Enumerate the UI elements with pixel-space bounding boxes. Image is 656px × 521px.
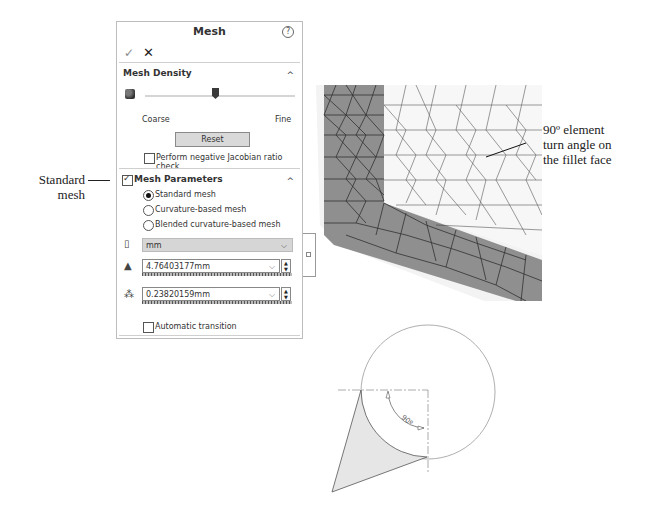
slider-thumb[interactable] (212, 88, 219, 99)
chevron-down-icon[interactable]: ⌵ (269, 288, 275, 301)
element-size-thumbwheel[interactable] (142, 273, 292, 276)
mesh-parameters-checkbox[interactable] (122, 175, 133, 186)
turn-angle-annotation: 90º element turn angle on the fillet fac… (543, 122, 612, 167)
fine-label: Fine (275, 115, 291, 124)
mesh-density-header[interactable]: Mesh Density (123, 68, 192, 78)
collapse-handle-icon (306, 252, 311, 257)
chevron-up-icon[interactable]: ^ (286, 70, 294, 80)
unit-select[interactable]: mm ⌵ (142, 238, 293, 252)
automatic-transition-label: Automatic transition (155, 322, 237, 331)
mesh-density-slider[interactable] (145, 95, 295, 97)
ok-check-icon[interactable]: ✓ (124, 46, 134, 60)
tolerance-icon: ⁂ (124, 289, 134, 300)
chevron-up-icon[interactable]: ^ (286, 176, 294, 186)
standard-mesh-label: Standard mesh (155, 190, 216, 199)
chevron-down-icon: ⌵ (281, 239, 287, 253)
annotation-text: 90º element (543, 122, 612, 137)
fillet-angle-diagram: 90º (320, 320, 500, 520)
element-size-input[interactable]: 4.76403177mm ⌵ (142, 259, 280, 273)
annotation-text: turn angle on (543, 137, 612, 152)
annotation-text: the fillet face (543, 152, 612, 167)
unit-value: mm (146, 241, 162, 250)
annotation-text: mesh (33, 187, 85, 202)
tolerance-input[interactable]: 0.23820159mm ⌵ (142, 287, 280, 301)
tolerance-spinner[interactable]: ▲▼ (281, 287, 291, 301)
element-size-value: 4.76403177mm (146, 262, 210, 271)
panel-collapse-tab[interactable] (303, 233, 316, 277)
radio-curvature-mesh[interactable] (143, 205, 154, 216)
chevron-down-icon[interactable]: ⌵ (269, 260, 275, 273)
panel-title: Mesh (117, 25, 302, 38)
mesh-render (316, 85, 542, 301)
close-icon[interactable]: ✕ (143, 45, 154, 60)
curvature-mesh-label: Curvature-based mesh (155, 205, 246, 214)
tolerance-thumbwheel[interactable] (142, 301, 292, 304)
element-size-spinner[interactable]: ▲▼ (281, 259, 291, 273)
element-size-icon: ▲ (124, 260, 132, 271)
mesh-property-manager: Mesh ? ✓ ✕ Mesh Density ^ Coarse Fine Re… (116, 21, 303, 339)
divider (119, 62, 300, 63)
coarse-label: Coarse (142, 115, 170, 124)
leader-line (88, 180, 110, 181)
divider (119, 168, 300, 169)
divider (119, 335, 300, 336)
mesh-parameters-header: Mesh Parameters (134, 174, 223, 184)
blended-mesh-label: Blended curvature-based mesh (155, 220, 281, 229)
mesh-density-icon (125, 89, 135, 99)
tolerance-value: 0.23820159mm (146, 290, 210, 299)
help-icon[interactable]: ? (282, 26, 294, 38)
automatic-transition-checkbox[interactable] (143, 322, 154, 333)
jacobian-checkbox[interactable] (144, 153, 155, 164)
ruler-unit-icon: ▯ (124, 238, 130, 249)
annotation-text: Standard (33, 172, 85, 187)
radio-blended-mesh[interactable] (143, 220, 154, 231)
radio-standard-mesh[interactable] (143, 190, 154, 201)
reset-button[interactable]: Reset (175, 132, 250, 147)
standard-mesh-annotation: Standard mesh (33, 172, 85, 202)
